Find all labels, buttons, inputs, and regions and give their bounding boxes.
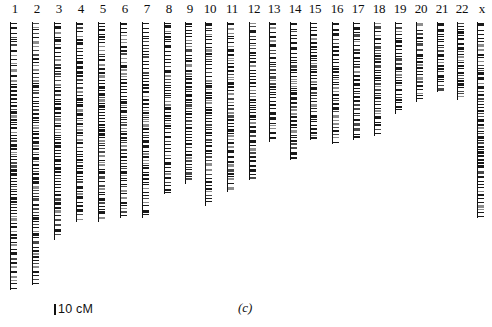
marker-band (478, 194, 484, 196)
marker-band (33, 125, 39, 126)
marker-band (165, 132, 171, 133)
marker-band (11, 237, 17, 239)
marker-band (250, 79, 256, 80)
chromosome-label-13: 13 (265, 2, 283, 16)
marker-band (478, 54, 484, 56)
marker-band (77, 118, 83, 119)
marker-band (206, 80, 212, 82)
marker-band (11, 84, 17, 85)
marker-band (438, 62, 444, 63)
marker-band (11, 252, 17, 255)
marker-band (291, 79, 297, 80)
marker-band (206, 43, 212, 44)
marker-band (165, 66, 171, 67)
marker-band (333, 115, 339, 118)
marker-band (417, 85, 423, 87)
marker-band (270, 32, 276, 33)
marker-band (206, 132, 212, 134)
marker-band (311, 49, 317, 50)
marker-band (121, 96, 127, 97)
marker-band (11, 154, 17, 155)
marker-band (478, 146, 484, 148)
marker-band (143, 61, 149, 62)
marker-band (11, 148, 17, 150)
marker-band (291, 47, 297, 50)
marker-band (77, 87, 83, 89)
marker-band (33, 90, 39, 91)
marker-band (206, 95, 212, 96)
marker-band (165, 82, 171, 83)
marker-band (186, 70, 192, 72)
marker-band (143, 72, 149, 74)
marker-band (478, 131, 484, 132)
marker-band (143, 124, 149, 127)
marker-band (228, 164, 234, 167)
marker-band (333, 75, 339, 76)
marker-band (11, 102, 17, 103)
marker-band (99, 133, 105, 136)
marker-band (143, 137, 149, 138)
marker-band (55, 26, 61, 29)
marker-band (291, 157, 297, 159)
marker-band (99, 164, 105, 166)
marker-band (478, 94, 484, 96)
marker-band (99, 34, 105, 35)
marker-band (55, 64, 61, 66)
marker-band (458, 35, 464, 36)
marker-band (458, 78, 464, 79)
marker-band (228, 142, 234, 144)
marker-band (143, 135, 149, 136)
marker-band (55, 39, 61, 42)
marker-band (417, 49, 423, 51)
marker-band (11, 23, 17, 24)
marker-band (99, 39, 105, 40)
marker-band (270, 137, 276, 139)
marker-band (143, 165, 149, 166)
marker-band (165, 36, 171, 38)
marker-band (311, 98, 317, 99)
marker-band (206, 169, 212, 171)
marker-band (55, 150, 61, 151)
marker-band (375, 124, 381, 126)
marker-band (354, 32, 360, 33)
marker-band (228, 77, 234, 78)
marker-band (77, 58, 83, 59)
marker-band (270, 117, 276, 120)
marker-band (333, 103, 339, 105)
marker-band (33, 181, 39, 184)
marker-band (291, 62, 297, 63)
marker-band (33, 275, 39, 276)
marker-band (206, 72, 212, 73)
marker-band (33, 117, 39, 119)
marker-band (186, 134, 192, 135)
marker-band (333, 107, 339, 110)
marker-band (396, 27, 402, 29)
marker-band (206, 115, 212, 116)
marker-band (458, 47, 464, 50)
marker-band (438, 65, 444, 67)
marker-band (77, 27, 83, 29)
marker-band (33, 215, 39, 216)
marker-band (186, 137, 192, 138)
marker-band (250, 43, 256, 44)
marker-band (33, 168, 39, 169)
marker-band (333, 91, 339, 92)
marker-band (375, 116, 381, 119)
marker-band (270, 128, 276, 129)
marker-band (333, 68, 339, 70)
marker-band (11, 262, 17, 264)
marker-band (458, 68, 464, 69)
marker-band (250, 112, 256, 113)
marker-band (354, 93, 360, 94)
marker-band (291, 60, 297, 61)
marker-band (478, 116, 484, 117)
marker-band (165, 171, 171, 172)
marker-band (417, 74, 423, 75)
marker-band (11, 169, 17, 172)
marker-band (11, 109, 17, 110)
marker-band (228, 79, 234, 80)
marker-band (186, 176, 192, 177)
marker-band (250, 177, 256, 179)
marker-band (291, 42, 297, 44)
marker-band (438, 39, 444, 40)
